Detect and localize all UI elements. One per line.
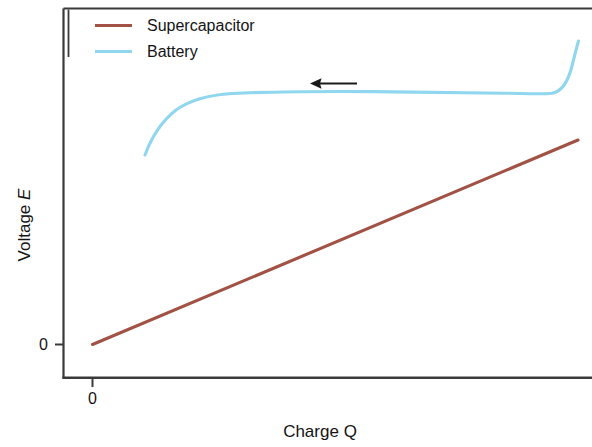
legend-label-battery: Battery: [147, 43, 198, 60]
x-tick-zero-label: 0: [88, 390, 97, 407]
x-axis-title-symbol: Q: [344, 422, 357, 441]
x-axis-title-text: Charge: [283, 422, 339, 441]
chart-background: [0, 0, 592, 447]
svg-text:Voltage E: Voltage E: [15, 188, 34, 261]
legend-label-supercapacitor: Supercapacitor: [147, 17, 255, 34]
voltage-vs-charge-chart: 0 0 Voltage E Charge Q: [0, 0, 592, 447]
x-axis-title: Charge Q: [283, 422, 357, 441]
y-tick-zero-label: 0: [39, 336, 48, 353]
y-axis-title-symbol: E: [15, 188, 34, 200]
svg-text:Charge Q: Charge Q: [283, 422, 357, 441]
chart-figure: 0 0 Voltage E Charge Q: [0, 0, 592, 447]
y-axis-title: Voltage E: [15, 188, 34, 261]
y-axis-title-text: Voltage: [15, 205, 34, 262]
